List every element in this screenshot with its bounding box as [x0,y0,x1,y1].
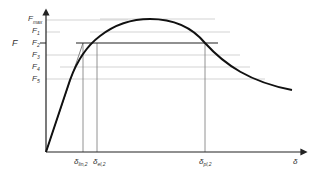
label-f2: F2 [32,38,40,48]
x-axis-symbol: δ [293,157,298,166]
label-f3: F3 [32,50,40,60]
label-delta-lin: δlin,2 [74,157,88,167]
label-delta-el: δel,2 [93,157,106,167]
label-f5: F5 [32,74,40,84]
x-axis-labels: δlin,2 δel,2 δpl,2 δ [74,157,298,167]
y-axis-labels: F Fmax F1 F2 F3 F4 F5 [12,14,43,84]
label-f4: F4 [32,62,40,72]
displacement-droplines [83,43,205,152]
force-displacement-diagram: F Fmax F1 F2 F3 F4 F5 δlin,2 δel,2 δpl,2… [0,0,316,178]
label-delta-pl: δpl,2 [199,157,212,167]
label-f1: F1 [32,26,40,36]
force-level-gridlines [46,19,265,79]
label-fmax: Fmax [28,14,43,25]
y-axis-symbol: F [12,38,18,48]
